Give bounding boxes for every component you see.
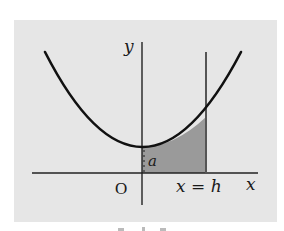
vertex-height-label: a: [148, 152, 157, 170]
parabola-area-diagram: y x O a x = h: [0, 0, 284, 231]
x-axis-label: x: [246, 174, 256, 194]
line-x-equals-h-label: x = h: [176, 176, 222, 196]
origin-label: O: [115, 179, 127, 198]
cropped-caption-fragments: [118, 227, 166, 231]
y-axis-label: y: [123, 36, 134, 56]
parabola-curve: [45, 52, 241, 147]
